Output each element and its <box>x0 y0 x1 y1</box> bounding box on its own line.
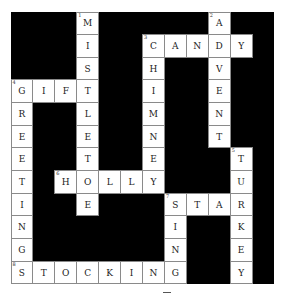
crossword-cell[interactable]: I <box>164 215 187 239</box>
crossword-cell[interactable]: C <box>76 261 99 285</box>
crossword-cell[interactable]: T <box>186 193 209 217</box>
crossword-cell[interactable]: Y <box>230 34 253 58</box>
crossword-cell[interactable]: Y <box>230 261 253 285</box>
crossword-cell[interactable]: N <box>11 215 34 239</box>
crossword-cell[interactable]: A <box>164 34 187 58</box>
crossword-cell[interactable]: D <box>208 34 231 58</box>
cell-letter: E <box>143 148 164 170</box>
crossword-cell[interactable]: U <box>230 170 253 194</box>
cell-letter: H <box>55 171 76 193</box>
cell-letter: S <box>12 262 33 284</box>
black-square <box>142 216 164 239</box>
crossword-cell[interactable]: R <box>230 193 253 217</box>
black-square <box>142 239 164 262</box>
crossword-cell[interactable]: E <box>76 193 99 217</box>
black-square <box>121 148 143 171</box>
crossword-cell[interactable]: I <box>120 261 143 285</box>
crossword-cell[interactable]: S <box>76 57 99 81</box>
black-square <box>99 193 121 216</box>
crossword-cell[interactable]: R <box>11 102 34 126</box>
black-square <box>252 216 274 239</box>
black-square <box>33 239 55 262</box>
black-square <box>33 148 55 171</box>
cell-letter: E <box>12 148 33 170</box>
crossword-cell[interactable]: I <box>11 193 34 217</box>
crossword-cell[interactable]: N <box>142 125 165 149</box>
cell-letter: N <box>143 262 164 284</box>
crossword-cell[interactable]: T <box>208 125 231 149</box>
crossword-cell[interactable]: N <box>208 102 231 126</box>
black-square <box>121 57 143 80</box>
crossword-cell[interactable]: T <box>11 170 34 194</box>
crossword-cell[interactable]: N <box>142 261 165 285</box>
crossword-cell[interactable]: 3C <box>142 34 165 58</box>
crossword-cell[interactable]: I <box>142 79 165 103</box>
black-square <box>252 239 274 262</box>
black-square <box>186 216 208 239</box>
black-square <box>186 103 208 126</box>
crossword-cell[interactable]: L <box>76 102 99 126</box>
crossword-cell[interactable]: G <box>11 238 34 262</box>
crossword-cell[interactable]: G <box>164 261 187 285</box>
crossword-cell[interactable]: E <box>208 79 231 103</box>
black-square <box>99 57 121 80</box>
black-square <box>55 216 77 239</box>
cell-letter: A <box>165 35 186 57</box>
crossword-cell[interactable]: E <box>11 125 34 149</box>
cell-letter: I <box>165 216 186 238</box>
cell-letter: U <box>231 171 252 193</box>
black-square <box>99 80 121 103</box>
crossword-cell[interactable]: N <box>186 34 209 58</box>
cell-letter: E <box>209 80 230 102</box>
crossword-cell[interactable]: 4G <box>11 79 34 103</box>
crossword-cell[interactable]: T <box>32 261 55 285</box>
crossword-cell[interactable]: K <box>98 261 121 285</box>
crossword-cell[interactable]: K <box>230 215 253 239</box>
black-square <box>99 35 121 58</box>
black-square <box>99 125 121 148</box>
crossword-cell[interactable]: T <box>76 79 99 103</box>
crossword-cell[interactable]: I <box>76 34 99 58</box>
black-square <box>33 12 55 35</box>
black-square <box>121 193 143 216</box>
crossword-cell[interactable]: H <box>142 57 165 81</box>
black-square <box>208 216 230 239</box>
crossword-cell[interactable]: V <box>208 57 231 81</box>
crossword-cell[interactable]: N <box>164 238 187 262</box>
crossword-cell[interactable]: A <box>208 193 231 217</box>
black-square <box>164 12 186 35</box>
crossword-cell[interactable]: T <box>76 147 99 171</box>
crossword-cell[interactable]: 1M <box>76 12 99 36</box>
cell-letter: L <box>77 103 98 125</box>
cell-letter: T <box>187 194 208 216</box>
crossword-cell[interactable]: L <box>98 170 121 194</box>
crossword-cell[interactable]: O <box>54 261 77 285</box>
black-square <box>33 103 55 126</box>
black-square <box>121 239 143 262</box>
crossword-cell[interactable]: O <box>76 170 99 194</box>
crossword-cell[interactable]: 7S <box>164 193 187 217</box>
black-square <box>33 216 55 239</box>
black-square <box>164 171 186 194</box>
cell-letter: O <box>55 262 76 284</box>
crossword-cell[interactable]: 6H <box>54 170 77 194</box>
crossword-cell[interactable]: E <box>76 125 99 149</box>
crossword-cell[interactable]: F <box>54 79 77 103</box>
black-square <box>121 35 143 58</box>
crossword-cell[interactable]: 5T <box>230 147 253 171</box>
black-square <box>230 80 252 103</box>
crossword-cell[interactable]: E <box>142 147 165 171</box>
crossword-cell[interactable]: E <box>230 238 253 262</box>
crossword-cell[interactable]: 8S <box>11 261 34 285</box>
black-square <box>164 125 186 148</box>
cell-letter: Y <box>231 35 252 57</box>
crossword-cell[interactable]: 2A <box>208 12 231 36</box>
crossword-cell[interactable]: E <box>11 147 34 171</box>
crossword-cell[interactable]: I <box>32 79 55 103</box>
cell-letter: I <box>143 80 164 102</box>
crossword-cell[interactable]: M <box>142 102 165 126</box>
crossword-cell[interactable]: Y <box>142 170 165 194</box>
crossword-cell[interactable]: L <box>120 170 143 194</box>
black-square <box>252 12 274 35</box>
black-square <box>164 103 186 126</box>
